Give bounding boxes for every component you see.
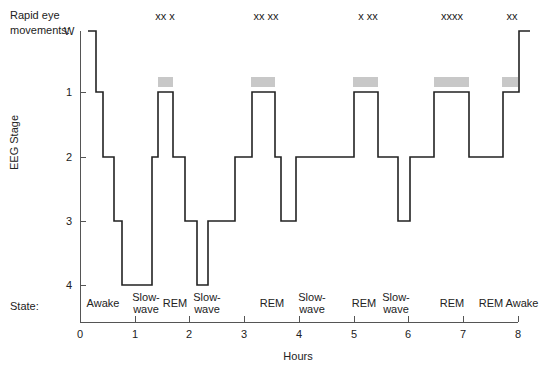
hypnogram-plot	[0, 0, 547, 366]
rem-bar-1	[158, 77, 173, 87]
eeg-stage-trace	[88, 31, 530, 285]
axes	[80, 31, 519, 323]
rem-bars	[158, 77, 518, 87]
rem-bar-2	[251, 77, 275, 87]
rem-bar-3	[353, 77, 378, 87]
rem-bar-4	[434, 77, 469, 87]
rem-bar-5	[502, 77, 518, 87]
